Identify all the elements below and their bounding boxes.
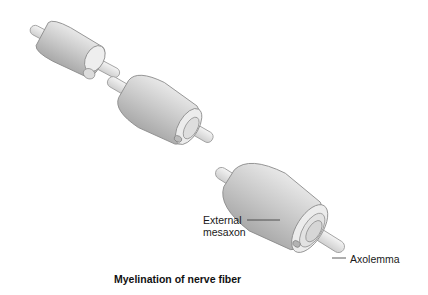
diagram-title: Myelination of nerve fiber	[114, 273, 241, 285]
label-axolemma: Axolemma	[350, 253, 400, 265]
label-external-mesaxon-line2: mesaxon	[203, 226, 246, 238]
label-external-mesaxon-line1: External	[203, 214, 246, 226]
label-external-mesaxon: External mesaxon	[203, 214, 246, 238]
myelination-illustration	[0, 0, 428, 295]
